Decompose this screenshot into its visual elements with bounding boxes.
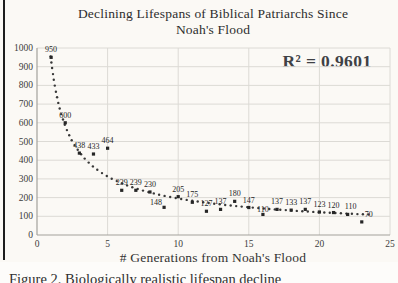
svg-text:0: 0 — [28, 230, 33, 240]
svg-text:438: 438 — [73, 141, 85, 150]
svg-text:127: 127 — [200, 199, 212, 208]
svg-text:464: 464 — [102, 136, 114, 145]
svg-text:70: 70 — [365, 210, 373, 219]
svg-text:147: 147 — [243, 196, 255, 205]
svg-text:600: 600 — [59, 111, 71, 120]
svg-text:200: 200 — [19, 193, 34, 203]
svg-text:1000: 1000 — [14, 43, 33, 53]
svg-text:433: 433 — [87, 142, 99, 151]
svg-text:100: 100 — [19, 211, 34, 221]
svg-text:137: 137 — [299, 197, 311, 206]
svg-text:175: 175 — [186, 190, 198, 199]
svg-text:239: 239 — [116, 178, 128, 187]
svg-text:25: 25 — [385, 239, 395, 249]
scanned-document-page: Declining Lifespans of Biblical Patriarc… — [0, 0, 398, 283]
svg-text:239: 239 — [130, 178, 142, 187]
svg-text:500: 500 — [19, 137, 34, 147]
svg-text:5: 5 — [105, 239, 110, 249]
svg-text:180: 180 — [229, 189, 241, 198]
scatter-plot-canvas: 0100200300400500600700800900100005101520… — [0, 0, 398, 250]
svg-text:123: 123 — [313, 200, 325, 209]
svg-text:900: 900 — [19, 62, 34, 72]
svg-text:120: 120 — [328, 201, 340, 210]
svg-text:600: 600 — [19, 118, 34, 128]
svg-text:300: 300 — [19, 174, 34, 184]
svg-text:400: 400 — [19, 155, 34, 165]
svg-text:230: 230 — [144, 180, 156, 189]
svg-text:700: 700 — [19, 99, 34, 109]
svg-text:15: 15 — [244, 239, 254, 249]
svg-text:137: 137 — [271, 197, 283, 206]
svg-text:0: 0 — [35, 239, 40, 249]
svg-text:800: 800 — [19, 80, 34, 90]
svg-text:110: 110 — [257, 205, 269, 214]
svg-text:950: 950 — [45, 45, 57, 54]
svg-text:10: 10 — [173, 239, 183, 249]
svg-text:110: 110 — [345, 202, 357, 211]
svg-text:137: 137 — [215, 197, 227, 206]
svg-text:205: 205 — [172, 185, 184, 194]
svg-text:148: 148 — [150, 198, 162, 207]
svg-text:133: 133 — [285, 198, 297, 207]
figure-caption: Figure 2. Biologically realistic lifespa… — [9, 271, 398, 283]
svg-text:20: 20 — [315, 239, 325, 249]
